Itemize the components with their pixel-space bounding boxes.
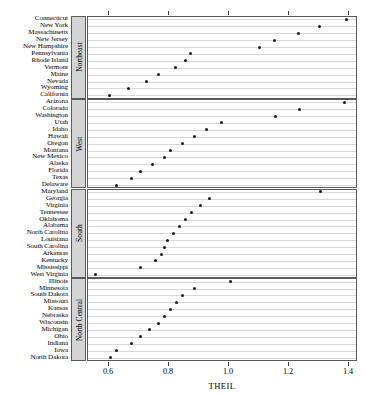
panel-south [87, 189, 357, 279]
gridline [88, 261, 356, 262]
data-point [297, 32, 300, 35]
data-point [345, 18, 348, 21]
gridline [88, 337, 356, 338]
data-point [145, 80, 148, 83]
x-tick-top [288, 11, 289, 15]
data-point [318, 25, 321, 28]
gridline [88, 95, 356, 96]
x-tick-label: 0.8 [163, 367, 173, 376]
gridline [88, 247, 356, 248]
gridline [88, 302, 356, 303]
data-point [157, 73, 160, 76]
data-point [154, 259, 157, 262]
gridline [88, 75, 356, 76]
data-point [94, 273, 97, 276]
gridline [88, 68, 356, 69]
panel-strip-north-central: North Central [71, 278, 86, 361]
data-point [139, 335, 142, 338]
gridline [88, 275, 356, 276]
gridline [88, 33, 356, 34]
data-point [175, 301, 178, 304]
data-point [130, 177, 133, 180]
gridline [88, 316, 356, 317]
gridline [88, 82, 356, 83]
gridline [88, 102, 356, 103]
gridline [88, 164, 356, 165]
x-tick [288, 362, 289, 366]
x-tick-top [348, 11, 349, 15]
gridline [88, 330, 356, 331]
data-point [130, 342, 133, 345]
data-point [184, 59, 187, 62]
gridline [88, 151, 356, 152]
gridline [88, 130, 356, 131]
x-tick [228, 362, 229, 366]
x-tick-top [168, 11, 169, 15]
top-axis-ticks [87, 11, 357, 16]
gridline [88, 47, 356, 48]
state-labels-column: ConnecticutNew YorkMassachusettsNew Jers… [0, 0, 70, 395]
data-point [208, 197, 211, 200]
data-point [169, 149, 172, 152]
data-point [108, 94, 111, 97]
data-point [166, 239, 169, 242]
data-point [184, 218, 187, 221]
data-point [172, 232, 175, 235]
data-point [273, 39, 276, 42]
gridline [88, 344, 356, 345]
gridline [88, 26, 356, 27]
x-tick [168, 362, 169, 366]
x-tick-label: 1.4 [343, 367, 353, 376]
data-point [190, 211, 193, 214]
gridline [88, 213, 356, 214]
panel-strips-column: NortheastWestSouthNorth Central [71, 0, 86, 395]
x-axis-title: THEIL [209, 381, 236, 391]
data-point [163, 246, 166, 249]
gridline [88, 358, 356, 359]
data-point [199, 204, 202, 207]
gridline [88, 220, 356, 221]
gridline [88, 351, 356, 352]
panel-strip-label: Northeast [74, 43, 83, 73]
data-point [189, 52, 192, 55]
gridline [88, 309, 356, 310]
x-tick-label: 1.2 [283, 367, 293, 376]
data-point [115, 349, 118, 352]
data-point [258, 46, 261, 49]
gridline [88, 171, 356, 172]
data-point [205, 128, 208, 131]
panel-west [87, 99, 357, 189]
data-point [220, 121, 223, 124]
gridline [88, 40, 356, 41]
data-point [160, 253, 163, 256]
gridline [88, 226, 356, 227]
panel-strip-west: West [71, 99, 86, 189]
panel-strip-label: South [74, 224, 83, 242]
x-tick-label: 0.6 [103, 367, 113, 376]
gridline [88, 282, 356, 283]
data-point [151, 163, 154, 166]
data-point [193, 135, 196, 138]
x-tick-label: 1.0 [223, 367, 233, 376]
x-axis: THEIL 0.60.81.01.21.4 [87, 362, 357, 395]
data-point [343, 101, 346, 104]
x-tick-top [228, 11, 229, 15]
gridline [88, 268, 356, 269]
data-point [148, 328, 151, 331]
panel-strip-label: West [74, 136, 83, 151]
panel-strip-south: South [71, 189, 86, 279]
gridline [88, 61, 356, 62]
gridline [88, 233, 356, 234]
gridline [88, 137, 356, 138]
panels-container [87, 0, 357, 395]
data-point [319, 190, 322, 193]
gridline [88, 240, 356, 241]
gridline [88, 157, 356, 158]
data-point [181, 142, 184, 145]
x-tick [348, 362, 349, 366]
data-point [127, 87, 130, 90]
gridline [88, 254, 356, 255]
panel-strip-northeast: Northeast [71, 16, 86, 99]
data-point [274, 115, 277, 118]
data-point [163, 315, 166, 318]
